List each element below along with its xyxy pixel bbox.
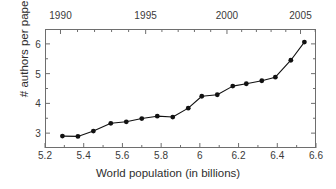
- top-tick-label: 1995: [134, 10, 157, 21]
- x-tick-label: 6.2: [231, 150, 245, 161]
- x-tick-label: 6: [197, 150, 203, 161]
- top-tick-label: 2000: [216, 10, 239, 21]
- x-tick-label: 6.4: [270, 150, 284, 161]
- x-tick-label: 6.6: [309, 150, 323, 161]
- x-tick-label: 5.8: [154, 150, 168, 161]
- x-axis-title: World population (in billions): [0, 167, 336, 179]
- x-tick-label: 5.6: [115, 150, 129, 161]
- chart-figure: 5.25.45.65.866.26.46.6 3456 199019952000…: [0, 0, 336, 189]
- y-axis-title: # authors per paper: [18, 0, 30, 120]
- x-tick-label: 5.2: [38, 150, 52, 161]
- y-tick-label: 3: [25, 128, 41, 139]
- top-tick-label: 2005: [289, 10, 312, 21]
- plot-area: [45, 29, 316, 148]
- x-tick-label: 5.4: [77, 150, 91, 161]
- top-tick-label: 1990: [49, 10, 72, 21]
